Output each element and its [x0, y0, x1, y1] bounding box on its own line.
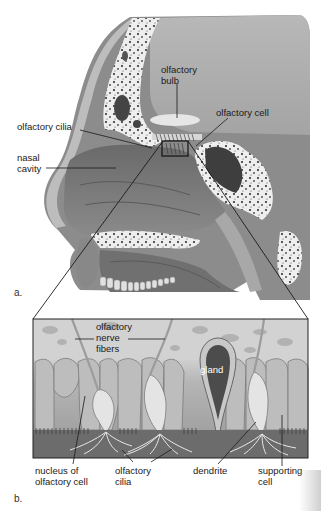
label-line: olfactory — [115, 465, 151, 476]
label-olfactory-cell: olfactory cell — [216, 107, 269, 118]
label-olfactory-cilia-a: olfactory cilia — [17, 121, 72, 132]
label-line: cilia — [115, 476, 151, 487]
label-line: nucleus of — [35, 465, 88, 476]
label-line: nasal — [17, 152, 41, 163]
panel-b-letter: b. — [14, 493, 22, 504]
label-line: olfactory cell — [35, 476, 88, 487]
page-shadow — [299, 470, 321, 511]
label-line: bulb — [161, 75, 197, 86]
label-nasal-cavity: nasal cavity — [17, 152, 41, 174]
label-olfactory-nerve-fibers: olfactory nerve fibers — [96, 321, 132, 354]
epithelium-section — [33, 319, 308, 458]
label-dendrite: dendrite — [193, 465, 227, 476]
label-olfactory-bulb: olfactory bulb — [161, 64, 197, 86]
olfactory-diagram: olfactory bulb olfactory cell olfactory … — [0, 0, 321, 511]
label-nucleus-of-olfactory-cell: nucleus of olfactory cell — [35, 465, 88, 487]
label-line: cell — [258, 476, 302, 487]
label-line: fibers — [96, 343, 132, 354]
label-line: supporting — [258, 465, 302, 476]
label-line: olfactory — [161, 64, 197, 75]
label-line: olfactory — [96, 321, 132, 332]
panel-a-letter: a. — [14, 287, 22, 298]
label-line: cavity — [17, 163, 41, 174]
label-line: nerve — [96, 332, 132, 343]
label-supporting-cell: supporting cell — [258, 465, 302, 487]
head-section — [44, 15, 310, 300]
label-gland: gland — [200, 364, 223, 375]
label-olfactory-cilia-b: olfactory cilia — [115, 465, 151, 487]
